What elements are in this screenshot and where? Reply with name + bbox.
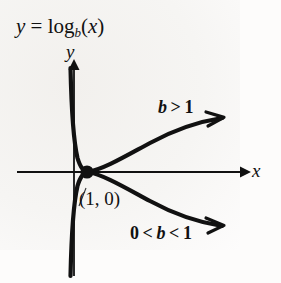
lower-label-lower-bound: 0: [130, 223, 139, 243]
title-close-paren: ): [97, 14, 104, 38]
lower-label-relation-2: <: [169, 223, 179, 243]
point-label-1-0: (1, 0): [79, 189, 120, 208]
lower-label-relation-1: <: [143, 223, 153, 243]
upper-curve-label: b > 1: [158, 98, 193, 116]
upper-label-value: 1: [184, 97, 193, 117]
title-argument: x: [88, 14, 97, 38]
title-log: log: [48, 14, 75, 38]
upper-label-b: b: [158, 97, 167, 117]
point-marker-1-0: [80, 165, 93, 178]
title-equation: y = logb(x): [16, 16, 104, 39]
title-lhs: y: [16, 14, 25, 38]
x-axis-arrowhead-icon: [240, 167, 251, 178]
logarithm-graph-figure: y = logb(x) y x b > 1 0 < b < 1 (1, 0): [0, 0, 281, 283]
x-axis-label: x: [252, 161, 260, 180]
title-open-paren: (: [81, 14, 88, 38]
y-axis-label: y: [66, 42, 74, 61]
lower-label-upper-bound: 1: [183, 223, 192, 243]
lower-curve-label: 0 < b < 1: [130, 224, 192, 242]
title-equals: =: [31, 14, 43, 38]
upper-label-relation: >: [171, 97, 181, 117]
